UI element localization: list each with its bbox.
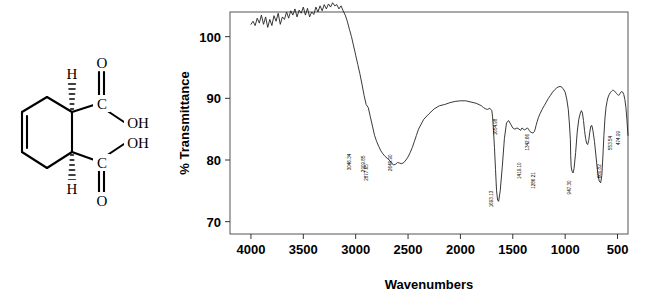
peak-annotation: 1419.10 (517, 162, 522, 179)
x-axis-ticks: 4000350030002500200015001000500 (236, 234, 628, 257)
peak-annotation: 1693.13 (489, 190, 494, 207)
structure-svg: H O C OH OH C O H (0, 40, 175, 240)
y-axis-ticks: 708090100 (199, 30, 230, 230)
peak-annotation: 1342.66 (525, 134, 530, 151)
peak-annotation-label: 474.99 (616, 131, 621, 145)
peak-annotation: 660.82 (597, 164, 602, 178)
x-axis-label: Wavenumbers (385, 277, 473, 292)
y-axis-label: % Transmittance (177, 71, 192, 174)
peak-annotation-label: 660.82 (597, 164, 602, 178)
x-tick-label: 4000 (236, 242, 265, 257)
y-tick-label: 100 (199, 30, 221, 45)
x-tick-label: 1000 (551, 242, 580, 257)
y-tick-label: 90 (207, 91, 221, 106)
peak-annotation: 1286.21 (531, 172, 536, 189)
peak-annotation: 553.54 (608, 135, 613, 149)
x-tick-label: 3500 (289, 242, 318, 257)
x-tick-label: 2000 (446, 242, 475, 257)
peak-annotation: 2877.65 (365, 164, 370, 181)
ring-bond-4 (47, 152, 72, 168)
atom-label-bottom-carbonyl-o: O (97, 193, 108, 209)
peak-annotation-label: 1419.10 (517, 162, 522, 179)
figure-container: H O C OH OH C O H 708090100 (0, 0, 645, 307)
ring-bond-1 (22, 97, 47, 112)
atom-label-top-c: C (97, 96, 107, 112)
ir-spectrum-chart: 708090100 400035003000250020001500100050… (175, 0, 645, 307)
peak-annotation-label: 3046.34 (347, 153, 352, 170)
chemical-structure: H O C OH OH C O H (0, 40, 175, 240)
peak-annotation: 1654.98 (493, 118, 498, 135)
peak-annotation: 474.99 (616, 131, 621, 145)
peak-annotation-label: 2877.65 (365, 164, 370, 181)
atom-label-bottom-c: C (97, 155, 107, 171)
hash-wedge-top (69, 84, 76, 109)
x-tick-label: 500 (607, 242, 629, 257)
ring-bond-6 (47, 97, 72, 112)
y-tick-label: 80 (207, 153, 221, 168)
x-tick-label: 3000 (341, 242, 370, 257)
peak-annotation-label: 1693.13 (489, 190, 494, 207)
y-tick-label: 70 (207, 215, 221, 230)
peak-annotation-label: 553.54 (608, 135, 613, 149)
peak-annotation: 3046.34 (347, 153, 352, 170)
peak-annotation-label: 1342.66 (525, 134, 530, 151)
atom-label-top-h: H (67, 66, 78, 82)
atom-label-top-carbonyl-o: O (97, 55, 108, 71)
peak-annotation-label: 1286.21 (531, 172, 536, 189)
ring-bond-3 (22, 152, 47, 168)
atom-label-bottom-oh: OH (127, 135, 149, 151)
peak-annotation-label: 2649.90 (388, 154, 393, 171)
spectrum-svg: 708090100 400035003000250020001500100050… (175, 0, 645, 307)
x-tick-label: 2500 (394, 242, 423, 257)
hash-wedge-bottom (69, 155, 76, 180)
atom-label-bottom-h: H (67, 181, 78, 197)
peak-annotation: 2649.90 (388, 154, 393, 171)
plot-frame (230, 12, 628, 234)
peak-annotation-label: 947.30 (567, 180, 572, 194)
peak-annotation-label: 1654.98 (493, 118, 498, 135)
peak-annotation: 947.30 (567, 180, 572, 194)
atom-label-top-oh: OH (127, 115, 149, 131)
x-tick-label: 1500 (498, 242, 527, 257)
